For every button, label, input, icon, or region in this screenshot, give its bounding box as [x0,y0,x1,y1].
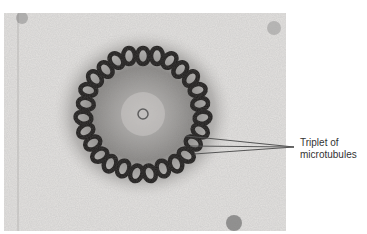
centriole-image [4,13,286,231]
annotation-line-2: microtubules [300,149,357,161]
annotation-label: Triplet of microtubules [300,137,357,161]
micrograph-photo [4,13,286,231]
annotation-line-1: Triplet of [300,137,357,149]
